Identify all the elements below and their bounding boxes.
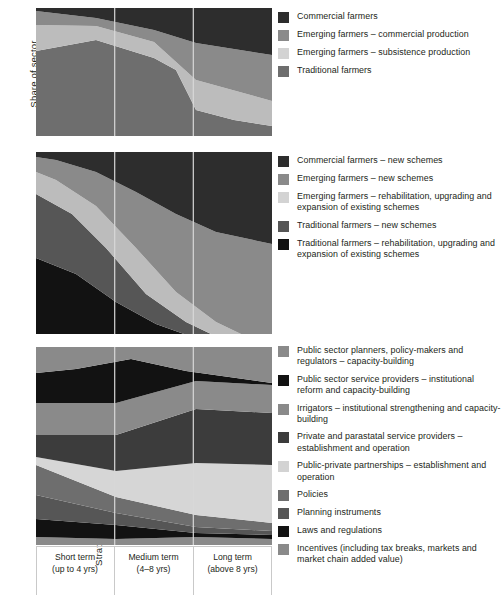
area-chart-3 [36, 347, 272, 545]
legend-item[interactable]: Emerging farmers – subsistence productio… [278, 47, 502, 59]
legend-item[interactable]: Traditional farmers [278, 65, 502, 77]
legend-swatch-icon [278, 239, 289, 250]
legend-swatch-icon [278, 490, 289, 501]
legend-swatch-icon [278, 48, 289, 59]
legend-item[interactable]: Traditional farmers – new schemes [278, 220, 502, 232]
legend-item[interactable]: Emerging farmers – new schemes [278, 173, 502, 185]
legend-item[interactable]: Commercial farmers [278, 11, 502, 23]
legend-label: Traditional farmers – rehabilitation, up… [297, 238, 502, 261]
legend-item[interactable]: Private and parastatal service providers… [278, 431, 502, 454]
x-axis-label-medium-term: Medium term (4–8 yrs) [114, 547, 193, 595]
legend-label: Public sector planners, policy-makers an… [297, 345, 502, 368]
legend-swatch-icon [278, 544, 289, 555]
legend-label: Laws and regulations [297, 525, 382, 536]
legend-swatch-icon [278, 346, 289, 357]
area-chart-1 [36, 8, 272, 136]
x-axis-label-short-term-line2: (up to 4 yrs) [36, 564, 114, 576]
area-band-incentives [36, 537, 272, 545]
legend-item[interactable]: Irrigators – institutional strengthening… [278, 403, 502, 426]
legend-swatch-icon [278, 30, 289, 41]
legend-label: Policies [297, 489, 328, 500]
legend-panel-3: Public sector planners, policy-makers an… [278, 345, 502, 572]
legend-swatch-icon [278, 404, 289, 415]
legend-swatch-icon [278, 156, 289, 167]
legend-label: Irrigators – institutional strengthening… [297, 403, 502, 426]
legend-item[interactable]: Planning instruments [278, 507, 502, 519]
legend-swatch-icon [278, 461, 289, 472]
legend-label: Emerging farmers – commercial production [297, 29, 469, 40]
legend-swatch-icon [278, 174, 289, 185]
x-axis-label-long-term-line2: (above 8 yrs) [193, 564, 272, 576]
legend-swatch-icon [278, 526, 289, 537]
legend-swatch-icon [278, 508, 289, 519]
chart-panel-strategic-emphasis [36, 152, 272, 334]
y-axis-title-panel-1: Share of sector [0, 8, 18, 140]
legend-item[interactable]: Public sector planners, policy-makers an… [278, 345, 502, 368]
x-axis-label-long-term: Long term (above 8 yrs) [193, 547, 272, 595]
legend-panel-1: Commercial farmers Emerging farmers – co… [278, 11, 502, 83]
legend-label: Emerging farmers – rehabilitation, upgra… [297, 191, 502, 214]
figure-root: Share of sector Strategic emphasis – cap… [0, 0, 504, 616]
legend-label: Public sector service providers – instit… [297, 374, 502, 397]
legend-label: Emerging farmers – new schemes [297, 173, 433, 184]
legend-label: Emerging farmers – subsistence productio… [297, 47, 470, 58]
y-axis-title-panel-2: Strategic emphasis – capital assets [0, 150, 18, 335]
legend-swatch-icon [278, 12, 289, 23]
legend-label: Private and parastatal service providers… [297, 431, 502, 454]
legend-label: Public-private partnerships – establishm… [297, 460, 502, 483]
x-axis-label-short-term: Short term (up to 4 yrs) [36, 547, 114, 595]
legend-item[interactable]: Incentives (including tax breaks, market… [278, 543, 502, 566]
legend-label: Traditional farmers – new schemes [297, 220, 436, 231]
chart-panel-share-of-sector [36, 8, 272, 136]
legend-label: Incentives (including tax breaks, market… [297, 543, 502, 566]
legend-item[interactable]: Public-private partnerships – establishm… [278, 460, 502, 483]
legend-label: Commercial farmers – new schemes [297, 155, 443, 166]
legend-swatch-icon [278, 432, 289, 443]
legend-label: Traditional farmers [297, 65, 372, 76]
chart-panel-strategic-importance [36, 347, 272, 545]
legend-panel-2: Commercial farmers – new schemes Emergin… [278, 155, 502, 267]
x-axis-label-medium-term-line2: (4–8 yrs) [114, 564, 193, 576]
legend-item[interactable]: Laws and regulations [278, 525, 502, 537]
area-chart-2 [36, 152, 272, 334]
x-axis-label-medium-term-line1: Medium term [128, 552, 178, 562]
legend-item[interactable]: Policies [278, 489, 502, 501]
legend-item[interactable]: Commercial farmers – new schemes [278, 155, 502, 167]
legend-swatch-icon [278, 66, 289, 77]
x-axis: Short term (up to 4 yrs) Medium term (4–… [36, 546, 272, 595]
legend-item[interactable]: Emerging farmers – rehabilitation, upgra… [278, 191, 502, 214]
legend-label: Commercial farmers [297, 11, 378, 22]
legend-swatch-icon [278, 221, 289, 232]
x-axis-label-short-term-line1: Short term [55, 552, 95, 562]
legend-swatch-icon [278, 192, 289, 203]
legend-item[interactable]: Public sector service providers – instit… [278, 374, 502, 397]
x-axis-label-long-term-line1: Long term [213, 552, 252, 562]
legend-swatch-icon [278, 375, 289, 386]
legend-item[interactable]: Traditional farmers – rehabilitation, up… [278, 238, 502, 261]
y-axis-title-panel-3: Strategic importance – enabling environm… [0, 345, 18, 590]
legend-label: Planning instruments [297, 507, 381, 518]
legend-item[interactable]: Emerging farmers – commercial production [278, 29, 502, 41]
